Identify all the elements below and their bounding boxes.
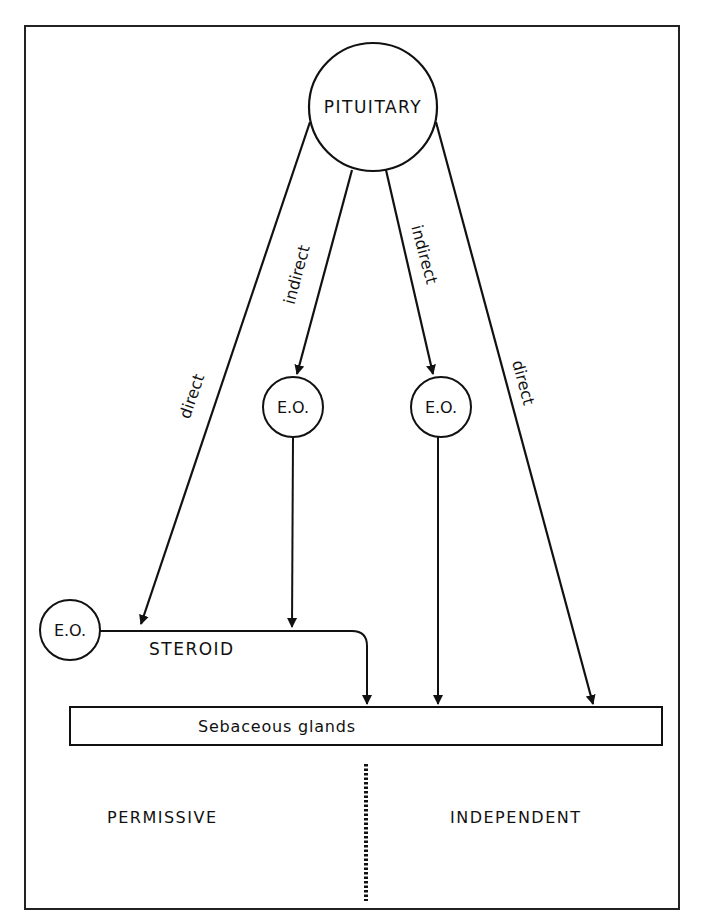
pituitary-node: PITUITARY <box>309 43 437 171</box>
left-indirect-label: indirect <box>280 243 314 306</box>
eo-left-node: E.O. <box>40 600 100 660</box>
eo-middle-left-arrow <box>292 437 293 627</box>
sebaceous-glands-node: Sebaceous glands <box>70 707 662 745</box>
left-direct-arrow <box>141 122 310 624</box>
eo-middle-right-node: E.O. <box>411 377 471 437</box>
sebaceous-glands-label: Sebaceous glands <box>198 717 356 736</box>
eo-middle-left-node: E.O. <box>263 377 323 437</box>
right-indirect-label: indirect <box>407 223 441 286</box>
left-direct-label: direct <box>175 371 208 420</box>
independent-label: INDEPENDENT <box>450 808 582 827</box>
eo-left-label: E.O. <box>54 621 86 640</box>
pituitary-control-diagram: PITUITARY direct indirect indirect direc… <box>0 0 704 922</box>
eo-middle-left-label: E.O. <box>277 398 309 417</box>
eo-middle-right-label: E.O. <box>425 398 457 417</box>
right-direct-label: direct <box>508 358 538 407</box>
permissive-label: PERMISSIVE <box>107 808 217 827</box>
steroid-label: STEROID <box>149 639 235 659</box>
pituitary-label: PITUITARY <box>324 97 422 117</box>
